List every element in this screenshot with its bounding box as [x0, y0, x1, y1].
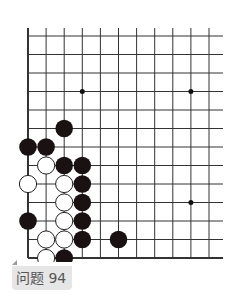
label-corner-mark [12, 260, 17, 265]
black-stone [55, 120, 73, 138]
black-stone [74, 231, 92, 249]
black-stone [74, 212, 92, 230]
black-stone [74, 194, 92, 212]
white-stone [56, 175, 73, 192]
black-stone [74, 157, 92, 175]
go-board [0, 0, 239, 262]
star-point-icon [80, 89, 85, 94]
black-stone [55, 249, 73, 262]
white-stone [56, 231, 73, 248]
black-stone [37, 138, 55, 156]
black-stone [19, 138, 37, 156]
white-stone [38, 249, 55, 262]
star-point-icon [188, 200, 193, 205]
black-stone [19, 212, 37, 230]
problem-label: 问题 94 [12, 266, 72, 290]
white-stone [38, 231, 55, 248]
white-stone [56, 194, 73, 211]
white-stone [38, 157, 55, 174]
black-stone [110, 231, 128, 249]
white-stone [56, 212, 73, 229]
white-stone [19, 175, 36, 192]
star-point-icon [188, 89, 193, 94]
black-stone [55, 157, 73, 175]
black-stone [74, 175, 92, 193]
